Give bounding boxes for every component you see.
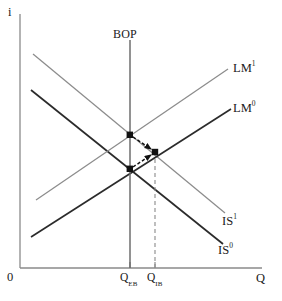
- lm0-curve: [31, 109, 231, 237]
- lm1-label-superscript: 1: [252, 59, 256, 68]
- lm1-label-base: LM: [233, 61, 252, 75]
- q-eb-subscript: EB: [128, 280, 137, 288]
- is0-label-superscript: 0: [229, 241, 233, 250]
- diagram-canvas: [0, 0, 282, 301]
- origin-label: 0: [7, 271, 13, 284]
- lm0-label-base: LM: [233, 101, 252, 115]
- lm0-label-superscript: 0: [252, 99, 256, 108]
- lm0-label: LM0: [233, 101, 256, 115]
- bop-label: BOP: [113, 28, 137, 40]
- islm-bop-diagram: i Q 0 BOP LM1 LM0 IS1 IS0 QEB QIB: [0, 0, 282, 301]
- y-axis-label: i: [8, 6, 11, 19]
- is1-label-superscript: 1: [233, 212, 237, 221]
- equilibrium-point-upper: [127, 132, 133, 138]
- is1-label: IS1: [222, 214, 237, 228]
- equilibrium-point-right: [152, 149, 158, 155]
- is0-label: IS0: [218, 243, 233, 257]
- q-eb-tick-label: QEB: [120, 272, 137, 286]
- equilibrium-point-lower: [127, 166, 133, 172]
- x-axis-label: Q: [256, 272, 265, 285]
- lm1-label: LM1: [233, 61, 256, 75]
- is1-label-base: IS: [222, 214, 233, 228]
- q-ib-tick-label: QIB: [147, 272, 163, 286]
- q-ib-subscript: IB: [155, 280, 162, 288]
- is0-label-base: IS: [218, 243, 229, 257]
